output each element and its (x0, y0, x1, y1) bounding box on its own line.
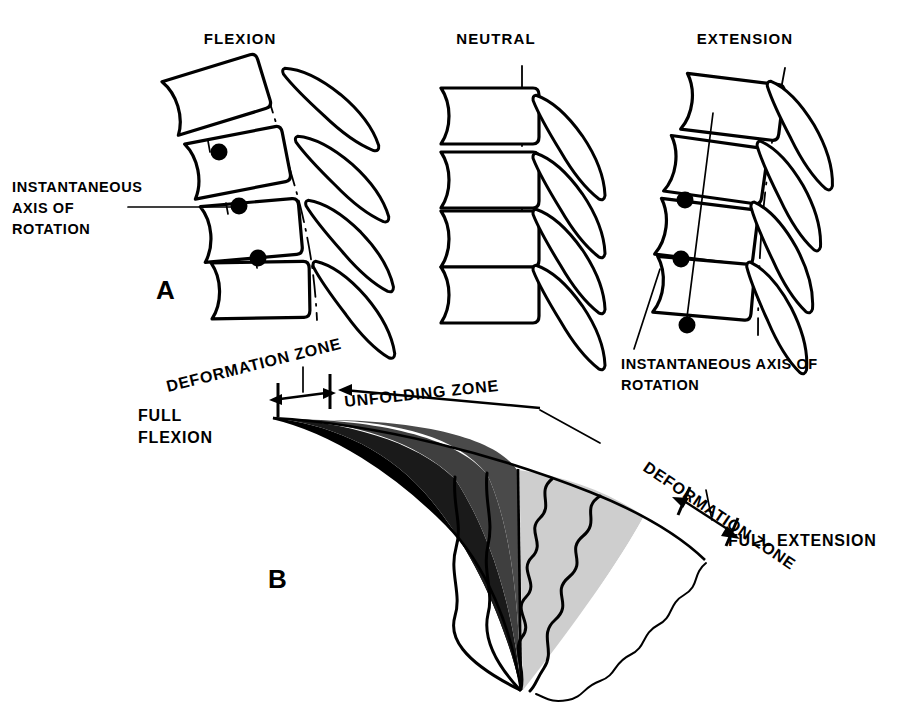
panel-title-neutral: NEUTRAL (456, 30, 535, 47)
panel-title-extension: EXTENSION (697, 30, 794, 47)
label-unfolding-zone: UNFOLDING ZONE (344, 377, 500, 410)
callout-left-line3: ROTATION (12, 221, 90, 237)
iar-dot (673, 251, 690, 268)
vertebral-body (441, 88, 539, 144)
vertebral-body (441, 267, 539, 323)
unfolding-zone-leader (540, 410, 600, 443)
callout-right-line2: ROTATION (621, 377, 699, 393)
label-full-flexion-line2: FLEXION (138, 429, 213, 446)
iar-dot (677, 192, 694, 209)
neutral-column (441, 66, 632, 371)
iar-dot (679, 317, 696, 334)
dimension-left-deformation (269, 367, 336, 417)
vertebral-body (441, 211, 539, 267)
label-full-flexion-line1: FULL (138, 407, 182, 424)
vertebral-body (441, 152, 539, 208)
panel-letter-b: B (268, 564, 287, 594)
vertebral-body (211, 261, 310, 319)
vertebral-body (185, 125, 292, 199)
dim-line-left (280, 393, 326, 399)
panel-b: DEFORMATION ZONE UNFOLDING ZONE FULL FLE… (138, 335, 877, 701)
panel-a: FLEXION NEUTRAL EXTENSION (12, 30, 863, 393)
panel-title-flexion: FLEXION (204, 30, 277, 47)
dim-arrow-left-a (269, 394, 282, 405)
panel-letter-a: A (156, 275, 175, 305)
callout-right-line1: INSTANTANEOUS AXIS OF (621, 356, 818, 372)
iar-dot (250, 250, 267, 267)
figure-canvas: FLEXION NEUTRAL EXTENSION (0, 0, 899, 711)
iar-dot (211, 144, 228, 161)
vertebral-body (162, 53, 272, 135)
callout-left-line1: INSTANTANEOUS (12, 179, 143, 195)
vertebral-body (653, 256, 756, 320)
callout-left-line2: AXIS OF (12, 200, 74, 216)
iar-dot (231, 198, 248, 215)
label-full-extension: FULL EXTENSION (728, 532, 877, 549)
figure-root: FLEXION NEUTRAL EXTENSION (0, 0, 899, 711)
extension-column (653, 68, 863, 375)
spinous-process (270, 67, 391, 151)
label-deformation-zone-left: DEFORMATION ZONE (165, 335, 343, 395)
